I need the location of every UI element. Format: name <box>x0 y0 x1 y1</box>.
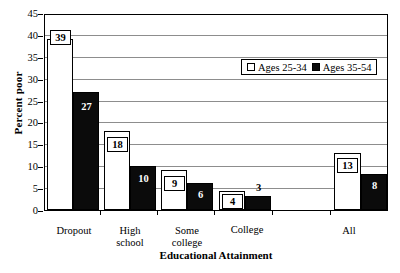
y-tickmark-5 <box>38 189 43 190</box>
y-tickmark-10 <box>38 167 43 168</box>
x-label-somecollege-line2: college <box>158 237 216 249</box>
x-label-highschool-line1: High <box>102 225 158 237</box>
value-label-highschool-ages-25-34: 18 <box>107 137 128 152</box>
x-tickmark-2 <box>157 211 158 215</box>
y-tick-40: 40 <box>16 31 38 41</box>
y-tickmark-40 <box>38 36 43 37</box>
dark-square-icon <box>312 63 320 71</box>
bar-chart: Percent poor 45 40 35 30 25 20 15 10 5 0… <box>0 0 400 273</box>
y-tickmark-25 <box>38 102 43 103</box>
gridline-30 <box>45 79 387 80</box>
value-label-all-ages-35-54: 8 <box>364 180 385 191</box>
legend-label-ages-35-54: Ages 35-54 <box>323 62 372 73</box>
bar-college-ages-35-54 <box>245 196 271 210</box>
value-label-college-ages-35-54: 3 <box>248 182 269 193</box>
x-tickmark-4 <box>272 211 273 215</box>
value-label-highschool-ages-35-54: 10 <box>133 173 154 184</box>
gridline-35 <box>45 57 387 58</box>
x-label-all: All <box>333 225 365 237</box>
legend-label-ages-25-34: Ages 25-34 <box>258 62 307 73</box>
bar-dropout-ages-25-34 <box>47 39 73 210</box>
gridline-40 <box>45 35 387 36</box>
y-tickmark-35 <box>38 58 43 59</box>
y-tick-0: 0 <box>16 206 38 216</box>
value-label-college-ages-25-34: 4 <box>222 194 243 209</box>
light-square-icon <box>247 63 255 71</box>
value-label-dropout-ages-35-54: 27 <box>76 101 97 112</box>
x-label-dropout: Dropout <box>44 225 104 237</box>
y-tickmark-15 <box>38 145 43 146</box>
x-label-college: College <box>216 224 278 236</box>
legend-item-ages-25-34: Ages 25-34 <box>247 62 307 73</box>
legend-item-ages-35-54: Ages 35-54 <box>312 62 372 73</box>
y-tickmark-45 <box>38 14 43 15</box>
y-axis-ticks: 45 40 35 30 25 20 15 10 5 0 <box>14 0 38 273</box>
y-tickmark-0 <box>38 211 43 212</box>
y-tick-5: 5 <box>16 184 38 194</box>
value-label-somecollege-ages-25-34: 9 <box>164 176 185 191</box>
y-tick-15: 15 <box>16 140 38 150</box>
x-axis-title: Educational Attainment <box>44 249 388 261</box>
y-tick-10: 10 <box>16 162 38 172</box>
y-tick-25: 25 <box>16 97 38 107</box>
value-label-somecollege-ages-35-54: 6 <box>190 189 211 200</box>
x-tickmark-1 <box>100 211 101 215</box>
x-tickmark-3 <box>214 211 215 215</box>
y-tick-35: 35 <box>16 53 38 63</box>
y-tick-20: 20 <box>16 118 38 128</box>
legend: Ages 25-34 Ages 35-54 <box>241 59 377 75</box>
y-tick-45: 45 <box>16 9 38 19</box>
value-label-dropout-ages-25-34: 39 <box>50 30 71 45</box>
value-label-all-ages-25-34: 13 <box>337 158 358 173</box>
y-tickmark-30 <box>38 80 43 81</box>
x-tickmark-5 <box>330 211 331 215</box>
x-label-highschool-line2: school <box>102 237 158 249</box>
y-tickmark-20 <box>38 123 43 124</box>
plot-area: 39 27 18 10 9 6 4 3 13 8 Ages 25-34 <box>44 14 388 211</box>
y-tick-30: 30 <box>16 75 38 85</box>
x-label-somecollege-line1: Some <box>158 225 216 237</box>
